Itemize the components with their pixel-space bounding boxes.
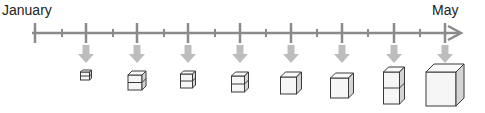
cube-icon <box>384 67 405 104</box>
cube-icon <box>128 71 146 90</box>
cube-icon <box>281 72 302 94</box>
down-arrow-icon <box>437 45 453 63</box>
down-arrow-icon <box>283 45 299 63</box>
down-arrow-icon <box>129 45 145 63</box>
cube-icon <box>426 64 464 106</box>
cube-icon <box>232 72 249 92</box>
cube-icon <box>81 70 92 80</box>
cube-icon <box>331 73 354 98</box>
timeline-diagram <box>0 0 485 113</box>
down-arrow-icon <box>386 45 402 63</box>
down-arrow-icon <box>78 45 94 63</box>
down-arrows <box>78 45 453 63</box>
down-arrow-icon <box>334 45 350 63</box>
cube-icon <box>181 71 196 88</box>
growth-cubes <box>81 64 465 106</box>
down-arrow-icon <box>180 45 196 63</box>
down-arrow-icon <box>232 45 248 63</box>
